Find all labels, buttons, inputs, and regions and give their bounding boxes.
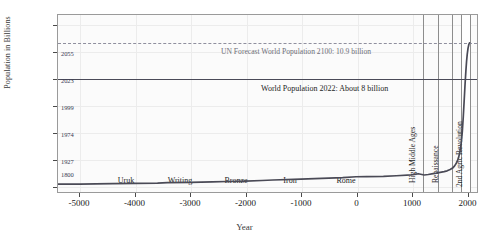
x-tick-mark--1000 — [301, 193, 302, 197]
x-tick-mark-2000 — [468, 193, 469, 197]
x-tick-label--4000: -4000 — [105, 198, 165, 208]
x-tick-label--5000: -5000 — [49, 198, 109, 208]
plot-area: UN Forecast World Population 2100: 10.9 … — [57, 14, 478, 193]
x-tick-mark--2000 — [246, 193, 247, 197]
x-tick-mark-1000 — [412, 193, 413, 197]
x-tick-mark--5000 — [79, 193, 80, 197]
population-curve — [58, 15, 477, 192]
x-tick-label--2000: -2000 — [216, 198, 276, 208]
y-axis-title: Population in Billions — [3, 0, 12, 113]
x-tick-label--1000: -1000 — [271, 198, 331, 208]
x-tick-mark--4000 — [135, 193, 136, 197]
x-tick-label-1000: 1000 — [382, 198, 442, 208]
x-tick-label-2000: 2000 — [438, 198, 489, 208]
x-tick-mark--3000 — [190, 193, 191, 197]
x-tick-label--3000: -3000 — [160, 198, 220, 208]
x-axis-title: Year — [0, 222, 489, 232]
x-tick-mark-0 — [357, 193, 358, 197]
x-tick-label-0: 0 — [327, 198, 387, 208]
population-chart-figure: Population in Billions 12 10 8 6 4 2 0 — [0, 0, 489, 250]
